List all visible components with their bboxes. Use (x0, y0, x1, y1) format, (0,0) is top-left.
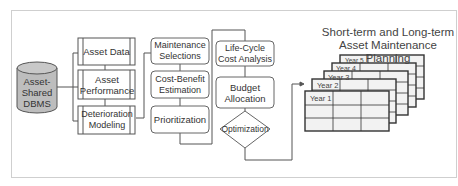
asset-data-label: Asset Data (83, 38, 130, 65)
prioritization-label: Prioritization (151, 106, 209, 133)
asset-performance-label: Asset Performance (79, 70, 135, 99)
db-line-2: Shared (22, 87, 53, 98)
lcca-label: Life-Cycle Cost Analysis (216, 41, 274, 66)
database-label: Asset- Shared DBMS (17, 74, 57, 110)
output-title-line-1: Short-term and Long-term (318, 26, 458, 39)
db-line-3: DBMS (23, 98, 50, 109)
year-1-label: Year 1 (310, 94, 331, 103)
year-tables (305, 55, 424, 131)
cost-benefit-label: Cost-Benefit Estimation (151, 71, 209, 98)
budget-allocation-label: Budget Allocation (216, 77, 274, 108)
year-4-label: Year 4 (336, 65, 356, 72)
optimization-label: Optimization (218, 123, 272, 135)
year-5-label: Year 5 (345, 57, 364, 64)
output-title: Short-term and Long-term Asset Maintenan… (318, 26, 458, 65)
output-title-line-2: Asset Maintenance Planning (318, 39, 458, 65)
year-2-label: Year 2 (317, 81, 338, 90)
deterioration-label: Deterioration Modeling (79, 106, 135, 134)
db-line-1: Asset- (24, 76, 51, 87)
maintenance-selections-label: Maintenance Selections (151, 38, 209, 64)
